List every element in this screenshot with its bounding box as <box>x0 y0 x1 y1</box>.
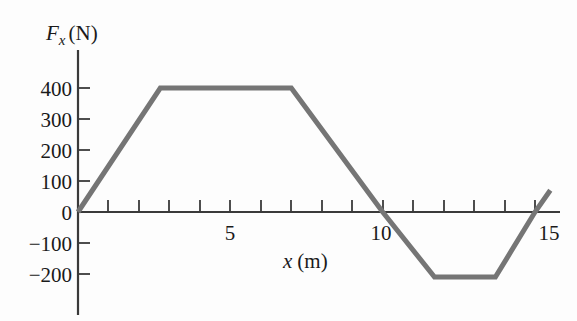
svg-text:Fx(N): Fx(N) <box>45 21 98 48</box>
chart-canvas: 400 300 200 100 0 −100 −200 <box>0 0 577 321</box>
y-axis-title: Fx(N) <box>45 21 98 48</box>
y-axis-group: 400 300 200 100 0 −100 −200 <box>29 50 90 315</box>
y-tick-label-200: 200 <box>41 139 73 163</box>
y-tick-label-minus-200: −200 <box>29 263 72 287</box>
svg-text:x(m): x(m) <box>282 249 328 273</box>
y-tick-label-400: 400 <box>41 77 73 101</box>
y-tick-label-300: 300 <box>41 108 73 132</box>
force-position-chart-figure: 400 300 200 100 0 −100 −200 <box>0 0 577 321</box>
y-tick-label-minus-100: −100 <box>29 232 72 256</box>
y-axis-title-unit: (N) <box>69 21 98 45</box>
x-axis-title-symbol: x <box>282 249 293 273</box>
y-axis-title-subscript: x <box>58 32 66 48</box>
y-tick-label-100: 100 <box>41 170 73 194</box>
x-tick-label-10: 10 <box>371 221 392 245</box>
x-tick-label-15: 15 <box>539 221 560 245</box>
y-tick-label-0: 0 <box>62 201 73 225</box>
x-axis-group: 5 10 15 <box>78 200 560 245</box>
y-axis-title-symbol: F <box>45 21 59 45</box>
y-axis-ticks <box>78 88 90 274</box>
x-axis-title-unit: (m) <box>297 249 327 273</box>
x-tick-label-5: 5 <box>225 221 236 245</box>
x-axis-ticks <box>108 200 535 212</box>
x-axis-title: x(m) <box>282 249 328 273</box>
